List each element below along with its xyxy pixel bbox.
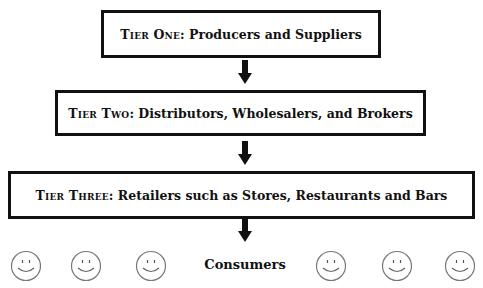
tier-one-prefix: Tier One [120,27,180,42]
tier-one-separator: : [180,27,189,42]
tier-three-text: Retailers such as Stores, Restaurants an… [118,188,448,203]
smiley-icon [381,250,413,282]
tier-two-separator: : [129,106,138,121]
smiley-icon [70,250,102,282]
tier-two-box: Tier Two: Distributors, Wholesalers, and… [55,90,426,136]
consumers-label: Consumers [200,257,290,272]
tier-one-box: Tier One: Producers and Suppliers [101,10,381,58]
tier-three-box: Tier Three: Retailers such as Stores, Re… [8,171,475,219]
smiley-icon [135,250,167,282]
tier-one-text: Producers and Suppliers [189,27,362,42]
down-arrow-icon [238,218,252,242]
tier-three-separator: : [109,188,118,203]
tier-two-text: Distributors, Wholesalers, and Brokers [138,106,412,121]
tier-two-prefix: Tier Two [68,106,129,121]
smiley-icon [315,250,347,282]
smiley-icon [10,250,42,282]
down-arrow-icon [238,141,252,165]
tier-three-prefix: Tier Three [36,188,109,203]
down-arrow-icon [238,60,252,84]
smiley-icon [444,250,476,282]
